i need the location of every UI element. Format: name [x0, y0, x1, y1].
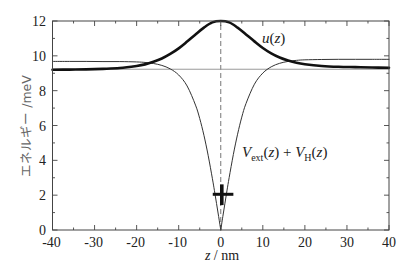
u-label-argument: (z)	[269, 30, 285, 47]
y-tick-label: 10	[32, 49, 46, 64]
v-ext-argument: (z) +	[263, 144, 295, 161]
x-tick-label: 40	[382, 235, 396, 250]
x-tick-label: -40	[42, 235, 61, 250]
x-axis-label-unit: / nm	[210, 248, 239, 263]
v-h-argument: (z)	[312, 144, 328, 161]
x-tick-label: -10	[168, 235, 187, 250]
x-tick-label: -20	[126, 235, 145, 250]
v-ext-subscript: ext	[251, 152, 263, 163]
x-axis-label: z / nm	[204, 248, 239, 263]
y-tick-label: 12	[32, 14, 46, 29]
v-h-subscript: H	[304, 152, 311, 163]
energy-profile-chart: 024681012-40-30-20-10010203040 z / nm エネ…	[0, 0, 413, 275]
x-tick-label: 20	[298, 235, 312, 250]
x-tick-label: 10	[256, 235, 270, 250]
x-tick-label: -30	[84, 235, 103, 250]
x-tick-label: 30	[340, 235, 354, 250]
y-tick-label: 4	[39, 153, 46, 168]
y-tick-label: 2	[39, 188, 46, 203]
chart-background	[0, 0, 413, 275]
annotation-u-of-z: u(z)	[262, 30, 285, 47]
y-tick-label: 8	[39, 84, 46, 99]
y-tick-label: 6	[39, 119, 46, 134]
y-axis-label: エネルギー /meV	[19, 75, 34, 177]
u-label-function: u	[262, 30, 270, 46]
